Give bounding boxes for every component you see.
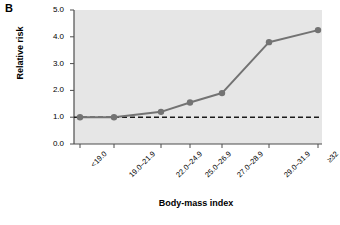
data-point: [315, 27, 321, 33]
data-point: [111, 114, 117, 120]
y-tick-label: 5.0: [38, 6, 64, 14]
panel-label: B: [5, 2, 13, 14]
x-axis-title: Body-mass index: [70, 198, 322, 208]
data-point: [187, 99, 193, 105]
data-point: [219, 90, 225, 96]
y-axis-title: Relative risk: [15, 5, 25, 101]
data-point: [77, 114, 83, 120]
y-tick-label: 0.0: [38, 140, 64, 148]
y-tick-label: 4.0: [38, 33, 64, 41]
data-point: [266, 39, 272, 45]
data-point: [158, 109, 164, 115]
plot-background: [74, 10, 322, 144]
y-tick-label: 3.0: [38, 60, 64, 68]
y-tick-label: 1.0: [38, 113, 64, 121]
y-tick-label: 2.0: [38, 86, 64, 94]
